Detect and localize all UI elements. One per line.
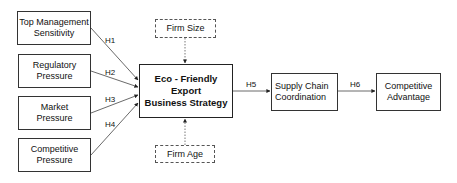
node-regulatory-pressure: RegulatoryPressure xyxy=(18,54,91,88)
node-firm-age: Firm Age xyxy=(155,145,215,163)
node-label: Firm Age xyxy=(167,149,203,160)
node-label: Pressure xyxy=(33,71,77,82)
hypothesis-label-h1: H1 xyxy=(105,36,115,45)
node-label: Firm Size xyxy=(167,23,205,34)
node-label: Pressure xyxy=(31,155,79,166)
node-top-management-sensitivity: Top ManagementSensitivity xyxy=(17,11,91,45)
hypothesis-label-h6: H6 xyxy=(350,80,360,89)
node-market-pressure: MarketPressure xyxy=(18,96,91,130)
hypothesis-label-h3: H3 xyxy=(105,95,115,104)
node-eco-friendly-export-strategy: Eco - Friendly ExportBusiness Strategy xyxy=(139,64,233,118)
node-supply-chain-coordination: Supply ChainCoordination xyxy=(271,73,338,111)
node-competitive-pressure: CompetitivePressure xyxy=(18,138,91,172)
node-label: Market xyxy=(36,102,72,113)
node-label: Competitive xyxy=(385,81,433,92)
node-label: Pressure xyxy=(36,113,72,124)
node-label: Advantage xyxy=(385,92,433,103)
node-label: Supply Chain xyxy=(275,81,329,92)
node-label: Business Strategy xyxy=(140,97,232,109)
node-competitive-advantage: CompetitiveAdvantage xyxy=(376,73,441,111)
node-firm-size: Firm Size xyxy=(155,19,216,38)
node-label: Eco - Friendly Export xyxy=(140,73,232,97)
node-label: Coordination xyxy=(275,92,329,103)
hypothesis-label-h4: H4 xyxy=(105,120,115,129)
node-label: Sensitivity xyxy=(19,28,89,39)
hypothesis-label-h5: H5 xyxy=(246,80,256,89)
node-label: Regulatory xyxy=(33,60,77,71)
node-label: Top Management xyxy=(19,17,89,28)
node-label: Competitive xyxy=(31,144,79,155)
arrow-h4 xyxy=(91,103,138,155)
hypothesis-label-h2: H2 xyxy=(105,68,115,77)
